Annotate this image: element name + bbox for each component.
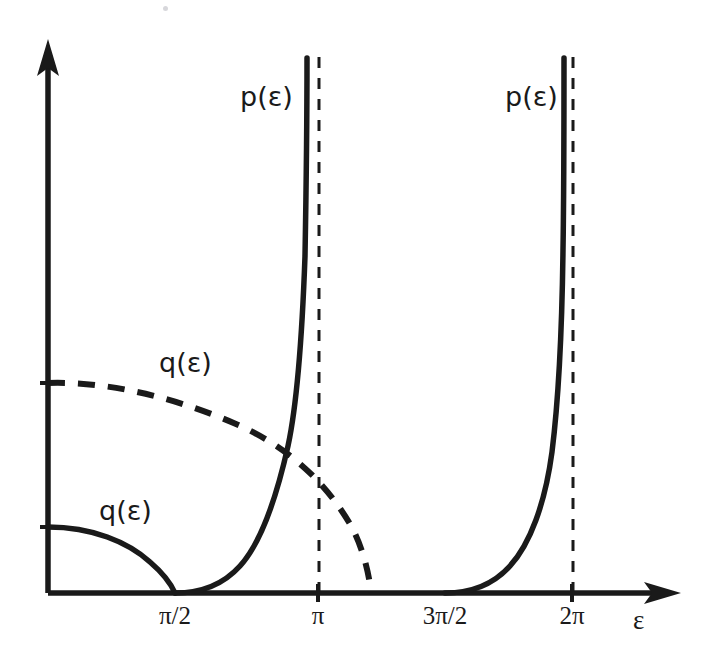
curve-q-solid-branch	[48, 527, 175, 593]
p-label-1: p(ε)	[240, 83, 293, 110]
plot-canvas	[0, 0, 702, 664]
curve-q-dashed-branch	[48, 383, 371, 593]
tick-group	[40, 383, 572, 602]
x-tick-label-pi: π	[298, 603, 338, 628]
curve-p-branch-2	[445, 58, 564, 593]
asymptote-group	[319, 57, 573, 592]
q-label-upper: q(ε)	[159, 349, 212, 376]
p-label-2: p(ε)	[505, 83, 558, 110]
figure-root: p(ε) p(ε) q(ε) q(ε) π/2 π 3π/2 2π ε	[0, 0, 702, 664]
x-tick-label-pi-over-2: π/2	[145, 603, 205, 628]
x-axis-label: ε	[633, 607, 644, 634]
curve-p-branch-1	[175, 58, 307, 593]
q-label-lower: q(ε)	[99, 497, 152, 524]
x-tick-label-3pi-over-2: 3π/2	[407, 603, 483, 628]
x-tick-label-2pi: 2π	[546, 603, 598, 628]
